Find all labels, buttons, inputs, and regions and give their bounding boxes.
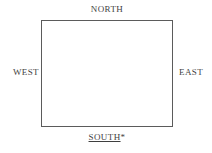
footnote-asterisk-marker: *	[121, 132, 126, 142]
direction-label-south: SOUTH*	[41, 132, 173, 142]
direction-label-north: NORTH	[41, 4, 173, 14]
direction-label-west: WEST	[0, 67, 39, 77]
direction-label-east: EAST	[179, 67, 212, 77]
central-rectangle	[41, 20, 173, 127]
compass-diagram: NORTH WEST EAST SOUTH*	[0, 0, 212, 153]
direction-label-south-text: SOUTH	[89, 132, 121, 142]
